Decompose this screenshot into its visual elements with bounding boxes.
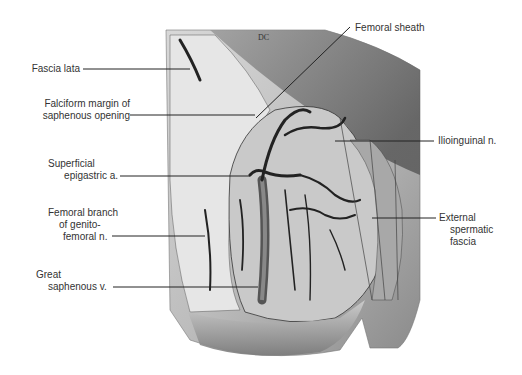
label-ilioinguinal: Ilioinguinal n. xyxy=(438,135,496,147)
label-femoral-sheath: Femoral sheath xyxy=(355,22,424,34)
label-femoral-branch: Femoral branch of genito- femoral n. xyxy=(48,207,118,243)
label-superficial-epigastric: Superficial epigastric a. xyxy=(10,158,118,182)
label-falciform-margin: Falciform margin of saphenous opening xyxy=(10,98,130,122)
label-external-spermatic: External spermatic fascia xyxy=(439,212,493,248)
anatomical-illustration: DC xyxy=(0,0,522,375)
label-fascia-lata: Fascia lata xyxy=(10,63,80,75)
artist-signature: DC xyxy=(258,33,269,42)
label-great-saphenous: Great saphenous v. xyxy=(36,269,107,293)
